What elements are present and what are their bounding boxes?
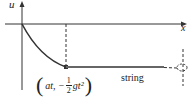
fraction: 1 2: [66, 76, 72, 95]
horizontal-axis-label: x: [181, 22, 185, 33]
diagram-graphics: [0, 0, 193, 107]
point-label: ( at, − 1 2 gt² ): [36, 72, 92, 98]
trajectory-curve: [22, 24, 66, 67]
diagram: u x ( at, − 1 2 gt² ) string: [0, 0, 193, 107]
vertical-axis-label: u: [9, 0, 15, 10]
fraction-denominator: 2: [67, 86, 71, 95]
ring-icon: [177, 64, 187, 71]
point-label-tail: gt²: [73, 80, 84, 91]
close-paren: ): [85, 74, 92, 96]
fraction-numerator: 1: [66, 76, 72, 86]
string-dashed-extension: [164, 68, 177, 69]
open-paren: (: [36, 74, 43, 96]
point-label-text: at, −: [45, 80, 65, 91]
string-label: string: [121, 72, 144, 83]
vertical-axis-arrow-icon: [20, 1, 25, 7]
